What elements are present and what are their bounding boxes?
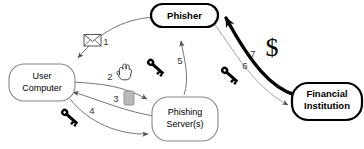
node-phishing-server[interactable]: Phishing Server(s) — [152, 97, 218, 141]
node-phishing-server-label-line2: Server(s) — [166, 119, 203, 129]
step-number-3: 3 — [113, 93, 118, 104]
node-phisher-label: Phisher — [167, 10, 202, 21]
dollar-icon: $ — [266, 33, 279, 62]
node-phishing-server-label-line1: Phishing — [168, 107, 203, 117]
node-phisher[interactable]: Phisher — [151, 4, 218, 27]
phishing-flow-diagram: Phisher User Computer Phishing Server(s)… — [0, 0, 364, 149]
edge-step-7 — [226, 18, 295, 95]
step-number-6: 6 — [242, 60, 247, 71]
step-number-5: 5 — [177, 55, 182, 66]
envelope-icon — [84, 35, 101, 47]
step-number-2: 2 — [107, 71, 112, 82]
key-icon — [145, 57, 166, 77]
node-financial-institution-label-line2: Institution — [304, 100, 350, 111]
node-user-computer-label-line1: User — [32, 71, 51, 81]
node-user-computer[interactable]: User Computer — [9, 64, 75, 101]
step-number-4: 4 — [89, 105, 94, 116]
document-icon — [124, 91, 134, 105]
node-financial-institution[interactable]: Financial Institution — [292, 83, 362, 120]
step-number-1: 1 — [103, 36, 108, 47]
edge-step-2 — [73, 82, 147, 99]
key-icon — [59, 107, 80, 127]
step-number-7: 7 — [250, 48, 255, 59]
hand-cursor-icon — [117, 64, 132, 80]
edge-step-5 — [181, 41, 187, 95]
node-user-computer-label-line2: Computer — [22, 83, 62, 93]
node-financial-institution-label-line1: Financial — [306, 88, 347, 99]
key-icon — [219, 65, 240, 85]
